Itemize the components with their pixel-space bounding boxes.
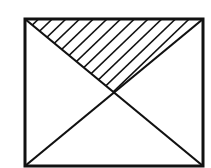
diagram-canvas (0, 0, 211, 168)
hatch-line (0, 19, 39, 96)
hatch-line (0, 19, 66, 96)
hatched-top-triangle (0, 19, 203, 96)
